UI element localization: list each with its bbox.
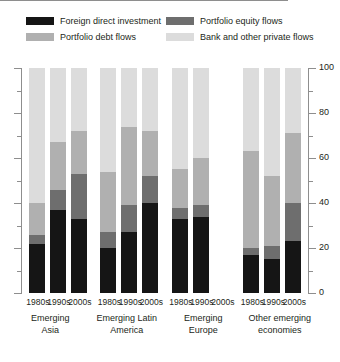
- stacked-bar[interactable]: [285, 68, 301, 293]
- bar-segment[interactable]: [142, 203, 158, 293]
- bar-slot: [98, 68, 119, 293]
- bar-slot: [262, 68, 283, 293]
- bar-segment[interactable]: [100, 232, 116, 248]
- bar-group: [237, 68, 309, 293]
- period-label: 2000s: [211, 296, 232, 308]
- bar-segment[interactable]: [264, 246, 280, 260]
- stacked-bar[interactable]: [142, 68, 158, 293]
- category-label: EmergingAsia: [12, 312, 89, 346]
- bar-segment[interactable]: [243, 248, 259, 255]
- bar-slot: [211, 68, 232, 293]
- period-label-group: 1980s1990s2000s: [165, 296, 237, 308]
- bar-segment[interactable]: [50, 190, 66, 210]
- period-label: 1990s: [119, 296, 140, 308]
- stacked-bar[interactable]: [50, 68, 66, 293]
- y-tick-minor: [309, 226, 313, 227]
- category-label-line: Emerging Latin: [89, 312, 166, 324]
- stacked-bar[interactable]: [121, 68, 137, 293]
- y-tick-minor: [309, 91, 313, 92]
- bar-group-inner: [241, 68, 304, 293]
- bar-group-inner: [26, 68, 89, 293]
- y-tick-major: [309, 248, 316, 249]
- bar-segment[interactable]: [100, 248, 116, 293]
- y-tick-label: 20: [319, 243, 329, 252]
- bar-segment[interactable]: [121, 127, 137, 206]
- bar-segment[interactable]: [193, 205, 209, 216]
- bar-group-inner: [169, 68, 232, 293]
- bar-segment[interactable]: [243, 68, 259, 151]
- category-label-line: Emerging: [12, 312, 89, 324]
- bar-segment[interactable]: [142, 131, 158, 176]
- y-tick-major: [309, 293, 316, 294]
- bar-slot: [140, 68, 161, 293]
- bar-segment[interactable]: [243, 255, 259, 293]
- category-label-line: economies: [242, 324, 319, 336]
- stacked-bar[interactable]: [264, 68, 280, 293]
- bar-segment[interactable]: [29, 203, 45, 235]
- bar-segment[interactable]: [193, 217, 209, 294]
- bar-segment[interactable]: [100, 68, 116, 172]
- bar-segment[interactable]: [142, 68, 158, 131]
- period-label: 2000s: [68, 296, 89, 308]
- bar-segment[interactable]: [71, 68, 87, 131]
- bar-segment[interactable]: [121, 205, 137, 232]
- bar-segment[interactable]: [142, 176, 158, 203]
- bar-segment[interactable]: [172, 68, 188, 169]
- y-tick-minor: [17, 271, 21, 272]
- bar-segment[interactable]: [193, 68, 209, 158]
- bar-segment[interactable]: [172, 169, 188, 207]
- bar-segment[interactable]: [264, 176, 280, 246]
- plot: 020406080100 1980s1990s2000s1980s1990s20…: [0, 0, 340, 362]
- y-tick-major: [14, 248, 21, 249]
- stacked-bar[interactable]: [100, 68, 116, 293]
- category-label: Emerging LatinAmerica: [89, 312, 166, 346]
- bar-segment[interactable]: [50, 142, 66, 189]
- bar-group-inner: [98, 68, 161, 293]
- stacked-bar[interactable]: [172, 68, 188, 293]
- stacked-bar[interactable]: [193, 68, 209, 293]
- bar-segment[interactable]: [193, 158, 209, 205]
- bar-segment[interactable]: [29, 235, 45, 244]
- period-label: 1990s: [262, 296, 283, 308]
- category-label: EmergingEurope: [165, 312, 242, 346]
- bar-group: [22, 68, 94, 293]
- y-tick-minor: [309, 271, 313, 272]
- bar-segment[interactable]: [121, 68, 137, 127]
- bar-segment[interactable]: [50, 68, 66, 142]
- bar-segment[interactable]: [71, 219, 87, 293]
- y-tick-major: [14, 113, 21, 114]
- bar-segment[interactable]: [100, 172, 116, 233]
- stacked-bar[interactable]: [243, 68, 259, 293]
- y-tick-major: [309, 203, 316, 204]
- category-label-line: Other emerging: [242, 312, 319, 324]
- bar-groups: [22, 68, 308, 293]
- category-label-line: Emerging: [165, 312, 242, 324]
- bar-segment[interactable]: [285, 241, 301, 293]
- x-axis: [0, 0, 288, 1]
- bar-segment[interactable]: [121, 232, 137, 293]
- bar-segment[interactable]: [71, 131, 87, 174]
- bar-segment[interactable]: [243, 151, 259, 248]
- bar-slot: [241, 68, 262, 293]
- bar-segment[interactable]: [285, 203, 301, 241]
- bar-segment[interactable]: [285, 68, 301, 133]
- y-tick-label: 40: [319, 198, 329, 207]
- bar-segment[interactable]: [71, 174, 87, 219]
- y-tick-major: [14, 68, 21, 69]
- bar-segment[interactable]: [285, 133, 301, 203]
- stacked-bar[interactable]: [29, 68, 45, 293]
- y-tick-label: 0: [319, 288, 324, 297]
- stacked-bar[interactable]: [71, 68, 87, 293]
- bar-segment[interactable]: [172, 208, 188, 219]
- y-tick-major: [309, 113, 316, 114]
- bar-segment[interactable]: [172, 219, 188, 293]
- bar-segment[interactable]: [29, 244, 45, 294]
- period-label: 2000s: [283, 296, 304, 308]
- bar-segment[interactable]: [29, 68, 45, 203]
- bar-segment[interactable]: [264, 259, 280, 293]
- period-label-group: 1980s1990s2000s: [237, 296, 309, 308]
- bar-segment[interactable]: [264, 68, 280, 176]
- bar-segment[interactable]: [50, 210, 66, 293]
- y-tick-label: 100: [319, 63, 334, 72]
- category-labels: EmergingAsiaEmerging LatinAmericaEmergin…: [12, 312, 318, 346]
